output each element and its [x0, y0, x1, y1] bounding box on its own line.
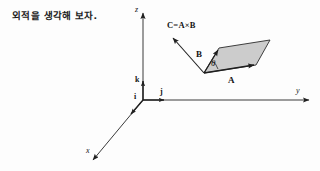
vector-label-c-expression: C=A×B	[167, 21, 196, 30]
unit-vector-i-arrow	[131, 100, 143, 114]
vector-label-b: B	[196, 50, 202, 59]
axis-label-z: z	[135, 6, 138, 14]
unit-vector-label-k: k	[135, 76, 139, 84]
axis-label-y: y	[296, 87, 300, 95]
unit-vector-label-i: i	[134, 93, 136, 101]
cross-product-diagram	[0, 0, 320, 171]
vector-label-a: A	[228, 76, 235, 85]
angle-label-theta: θ	[211, 59, 215, 68]
axis-label-x: x	[86, 147, 90, 155]
figure-page: 외적을 생각해 보자.	[0, 0, 320, 171]
unit-vector-label-j: j	[160, 88, 163, 96]
